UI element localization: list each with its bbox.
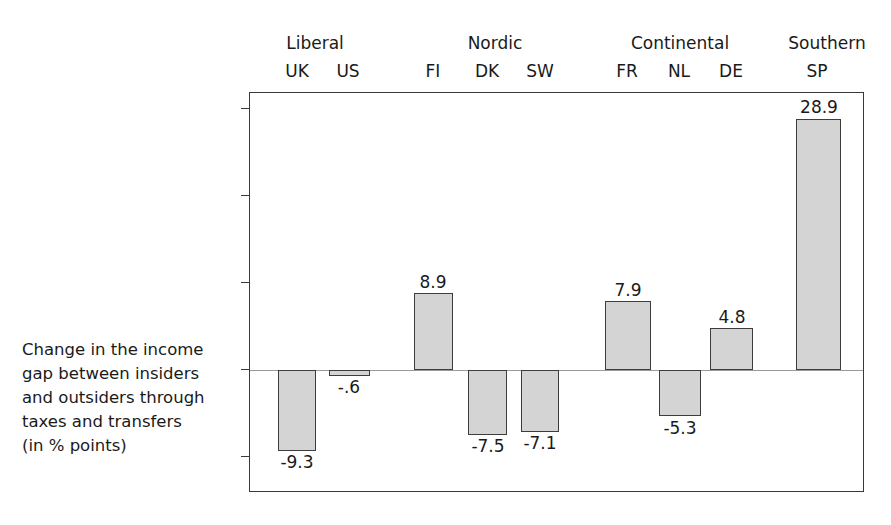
bar-value-us: -.6 <box>314 378 384 396</box>
bar-chart-figure: Liberal Nordic Continental Southern UK U… <box>0 0 891 525</box>
bar-nl <box>659 370 701 416</box>
plot-area: -9.3 -.6 8.9 -7.5 -7.1 7.9 -5.3 4.8 28.9 <box>249 92 864 492</box>
group-label-nordic: Nordic <box>425 33 565 53</box>
group-label-continental: Continental <box>600 33 760 53</box>
caption-line-5: (in % points) <box>22 434 237 458</box>
caption-line-3: and outsiders through <box>22 386 237 410</box>
bar-de <box>710 328 753 370</box>
bar-value-fr: 7.9 <box>593 281 663 299</box>
country-label-de: DE <box>706 61 756 81</box>
bar-us <box>329 370 370 376</box>
country-label-uk: UK <box>272 61 322 81</box>
caption-line-2: gap between insiders <box>22 362 237 386</box>
group-label-liberal: Liberal <box>255 33 375 53</box>
bar-sp <box>796 119 841 370</box>
bar-value-sp: 28.9 <box>784 98 854 116</box>
country-label-dk: DK <box>462 61 512 81</box>
bar-value-uk: -9.3 <box>262 453 332 471</box>
bar-fi <box>414 293 453 370</box>
country-label-fi: FI <box>408 61 458 81</box>
country-label-nl: NL <box>654 61 704 81</box>
bar-fr <box>605 301 651 370</box>
bar-uk <box>278 370 316 451</box>
bar-dk <box>468 370 507 435</box>
bar-value-de: 4.8 <box>697 308 767 326</box>
y-axis-caption: Change in the income gap between insider… <box>22 338 237 458</box>
bar-value-sw: -7.1 <box>505 434 575 452</box>
bar-sw <box>521 370 559 432</box>
bar-value-nl: -5.3 <box>645 419 715 437</box>
group-label-southern: Southern <box>772 33 882 53</box>
country-label-sp: SP <box>792 61 842 81</box>
country-label-sw: SW <box>515 61 565 81</box>
caption-line-1: Change in the income <box>22 338 237 362</box>
caption-line-4: taxes and transfers <box>22 410 237 434</box>
country-label-us: US <box>323 61 373 81</box>
bar-value-fi: 8.9 <box>398 273 468 291</box>
country-label-fr: FR <box>602 61 652 81</box>
